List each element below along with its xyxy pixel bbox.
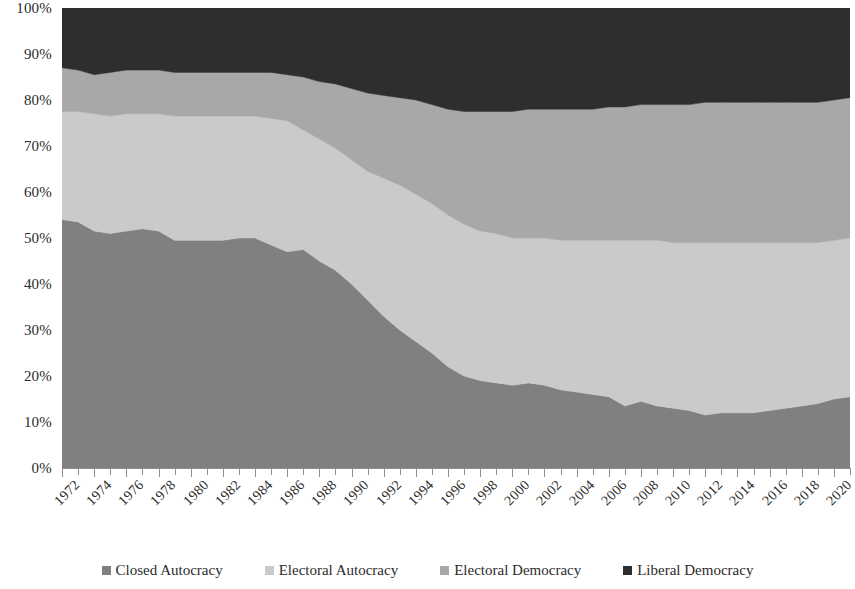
y-tick-label: 70% — [24, 138, 52, 155]
x-tick-mark — [561, 469, 562, 475]
x-tick-mark — [850, 469, 851, 475]
x-tick-mark — [673, 469, 674, 477]
legend-label: Closed Autocracy — [116, 562, 223, 579]
x-tick-mark — [448, 469, 449, 477]
x-tick-label: 1974 — [84, 477, 116, 509]
x-tick-mark — [319, 469, 320, 477]
x-tick-label: 1992 — [373, 477, 405, 509]
x-tick-mark — [528, 469, 529, 475]
y-tick-label: 30% — [24, 322, 52, 339]
x-tick-mark — [754, 469, 755, 475]
x-tick-mark — [512, 469, 513, 477]
chart-legend: Closed AutocracyElectoral AutocracyElect… — [0, 558, 855, 582]
y-tick-label: 20% — [24, 368, 52, 385]
y-tick-label: 10% — [24, 414, 52, 431]
x-tick-label: 2002 — [534, 477, 566, 509]
x-tick-mark — [110, 469, 111, 475]
x-tick-mark — [126, 469, 127, 477]
x-tick-mark — [496, 469, 497, 475]
y-axis: 0%10%20%30%40%50%60%70%80%90%100% — [0, 0, 58, 480]
x-tick-mark — [352, 469, 353, 477]
x-tick-mark — [544, 469, 545, 477]
x-tick-mark — [335, 469, 336, 475]
y-tick-label: 80% — [24, 92, 52, 109]
x-tick-mark — [464, 469, 465, 475]
x-tick-mark — [159, 469, 160, 477]
x-tick-mark — [641, 469, 642, 477]
legend-item[interactable]: Electoral Democracy — [440, 562, 581, 579]
x-tick-label: 2014 — [727, 477, 759, 509]
x-tick-label: 1990 — [341, 477, 373, 509]
x-axis: 1972197419761978198019821984198619881990… — [0, 477, 855, 547]
x-tick-mark — [625, 469, 626, 475]
x-tick-label: 2000 — [502, 477, 534, 509]
x-tick-mark — [416, 469, 417, 477]
legend-item[interactable]: Closed Autocracy — [102, 562, 223, 579]
area-series-svg — [62, 8, 850, 468]
x-tick-label: 1984 — [244, 477, 276, 509]
x-tick-mark — [577, 469, 578, 477]
x-tick-mark — [705, 469, 706, 477]
x-tick-label: 1982 — [212, 477, 244, 509]
x-tick-label: 2006 — [598, 477, 630, 509]
x-tick-mark — [271, 469, 272, 475]
x-tick-label: 1978 — [148, 477, 180, 509]
x-tick-label: 2008 — [630, 477, 662, 509]
legend-label: Electoral Autocracy — [279, 562, 399, 579]
y-tick-label: 100% — [16, 0, 52, 17]
x-tick-mark — [689, 469, 690, 475]
x-tick-mark — [593, 469, 594, 475]
x-tick-label: 1998 — [469, 477, 501, 509]
x-tick-mark — [303, 469, 304, 475]
y-tick-label: 40% — [24, 276, 52, 293]
x-tick-mark — [191, 469, 192, 477]
x-tick-label: 2004 — [566, 477, 598, 509]
legend-item[interactable]: Liberal Democracy — [623, 562, 753, 579]
x-tick-label: 1986 — [276, 477, 308, 509]
x-tick-mark — [175, 469, 176, 475]
x-tick-mark — [400, 469, 401, 475]
x-tick-mark — [802, 469, 803, 477]
x-tick-label: 2020 — [823, 477, 855, 509]
x-tick-label: 1972 — [51, 477, 83, 509]
x-tick-mark — [94, 469, 95, 477]
x-tick-label: 1996 — [437, 477, 469, 509]
x-tick-mark — [721, 469, 722, 475]
x-tick-mark — [368, 469, 369, 475]
x-tick-mark — [432, 469, 433, 475]
x-tick-label: 1994 — [405, 477, 437, 509]
y-tick-label: 60% — [24, 184, 52, 201]
legend-label: Liberal Democracy — [637, 562, 753, 579]
x-tick-mark — [255, 469, 256, 477]
x-axis-ticks — [62, 469, 851, 477]
x-tick-mark — [609, 469, 610, 477]
x-tick-mark — [818, 469, 819, 475]
x-tick-label: 2016 — [759, 477, 791, 509]
x-tick-mark — [480, 469, 481, 477]
x-tick-label: 1976 — [116, 477, 148, 509]
x-tick-label: 2012 — [695, 477, 727, 509]
x-tick-mark — [786, 469, 787, 475]
x-tick-mark — [834, 469, 835, 477]
x-tick-label: 2010 — [662, 477, 694, 509]
x-tick-label: 1980 — [180, 477, 212, 509]
x-tick-mark — [287, 469, 288, 477]
legend-label: Electoral Democracy — [454, 562, 581, 579]
stacked-area-chart: 0%10%20%30%40%50%60%70%80%90%100% 197219… — [0, 0, 855, 589]
x-tick-mark — [239, 469, 240, 475]
legend-swatch-icon — [265, 566, 274, 575]
plot-area — [62, 8, 850, 468]
legend-item[interactable]: Electoral Autocracy — [265, 562, 399, 579]
x-tick-label: 2018 — [791, 477, 823, 509]
y-tick-label: 50% — [24, 230, 52, 247]
legend-swatch-icon — [440, 566, 449, 575]
y-tick-label: 0% — [32, 460, 52, 477]
x-tick-mark — [62, 469, 63, 477]
x-tick-mark — [223, 469, 224, 477]
legend-swatch-icon — [102, 566, 111, 575]
x-tick-label: 1988 — [309, 477, 341, 509]
x-tick-mark — [657, 469, 658, 475]
y-tick-label: 90% — [24, 46, 52, 63]
x-tick-mark — [142, 469, 143, 475]
x-tick-mark — [737, 469, 738, 477]
